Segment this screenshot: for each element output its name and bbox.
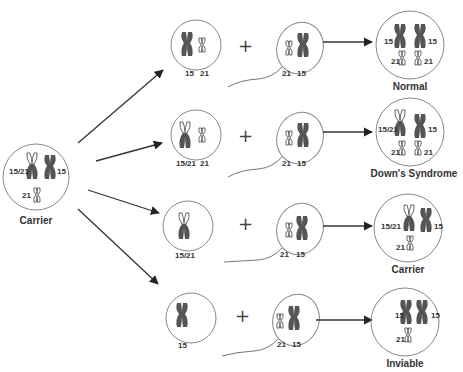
sperm-label: 15 bbox=[296, 250, 305, 259]
zygote-cell: 15 15 21 bbox=[371, 288, 440, 356]
egg-label: 15/21 bbox=[175, 251, 196, 260]
carrier-caption: Carrier bbox=[20, 215, 53, 226]
plus-sign: + bbox=[235, 305, 250, 326]
zygote-cell: 15/21 15 21 bbox=[374, 194, 443, 262]
carrier-label-21: 21 bbox=[22, 191, 31, 200]
zygote-cell: 15/21 15 21 21 bbox=[376, 98, 444, 166]
sperm-label: 15 bbox=[297, 159, 306, 168]
egg-label: 15/21 bbox=[176, 159, 197, 168]
sperm-label: 21 bbox=[282, 159, 291, 168]
row-carrier: 15/21 + 21 15 15/21 15 21 Carrier bbox=[163, 194, 443, 275]
row-downs-syndrome: 15/21 21 + 21 15 15/21 15 21 21 Down's S… bbox=[171, 98, 458, 179]
egg-label: 21 bbox=[200, 159, 209, 168]
egg-cell: 15 bbox=[166, 293, 216, 350]
zygote-label: 21 bbox=[424, 148, 433, 157]
plus-sign: + bbox=[238, 35, 253, 56]
carrier-label-15: 15 bbox=[57, 167, 66, 176]
egg-cell: 15/21 21 bbox=[171, 110, 221, 168]
sperm-label: 21 bbox=[282, 69, 291, 78]
sperm-label: 15 bbox=[292, 340, 301, 349]
zygote-label: 15 bbox=[395, 311, 404, 320]
zygote-label: 15/21 bbox=[381, 222, 402, 231]
plus-sign: + bbox=[238, 125, 253, 146]
carrier-label-15-21: 15/21 bbox=[9, 167, 30, 176]
zygote-label: 21 bbox=[424, 57, 433, 66]
zygote-label: 21 bbox=[396, 335, 405, 344]
sperm-label: 15 bbox=[297, 69, 306, 78]
zygote-label: 15 bbox=[431, 311, 440, 320]
egg-label: 21 bbox=[200, 69, 209, 78]
egg-label: 15 bbox=[178, 341, 187, 350]
zygote-label: 21 bbox=[391, 148, 400, 157]
translocation-diagram: 15/21 15 21 Carrier 15 21 + 21 15 bbox=[0, 0, 463, 372]
zygote-label: 15 bbox=[434, 222, 443, 231]
zygote-cell: 15 15 21 21 bbox=[376, 11, 444, 79]
zygote-label: 15/21 bbox=[378, 125, 399, 134]
plus-sign: + bbox=[238, 213, 253, 234]
outcome-label: Carrier bbox=[392, 264, 425, 275]
zygote-label: 15 bbox=[428, 37, 437, 46]
egg-cell: 15/21 bbox=[163, 201, 213, 260]
outcome-label: Down's Syndrome bbox=[371, 168, 458, 179]
row-inviable: 15 + 21 15 15 15 21 Inviable bbox=[166, 288, 440, 369]
zygote-label: 21 bbox=[391, 57, 400, 66]
row-normal: 15 21 + 21 15 15 15 21 21 Normal bbox=[171, 11, 444, 92]
sperm-label: 21 bbox=[277, 340, 286, 349]
egg-label: 15 bbox=[185, 69, 194, 78]
outcome-label: Normal bbox=[393, 81, 428, 92]
branch-arrows bbox=[78, 70, 163, 284]
zygote-label: 15 bbox=[428, 125, 437, 134]
zygote-label: 15 bbox=[384, 37, 393, 46]
zygote-label: 21 bbox=[396, 243, 405, 252]
sperm-label: 21 bbox=[280, 250, 289, 259]
carrier-parent-cell: 15/21 15 21 Carrier bbox=[3, 144, 69, 226]
outcome-label: Inviable bbox=[386, 358, 424, 369]
egg-cell: 15 21 bbox=[171, 20, 221, 78]
